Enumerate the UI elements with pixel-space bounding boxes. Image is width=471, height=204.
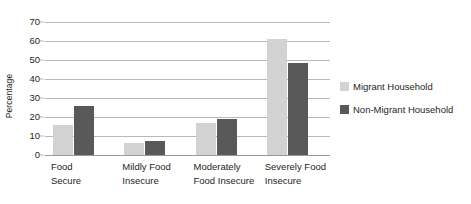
legend-item: Migrant Household bbox=[340, 82, 470, 92]
y-tick-mark bbox=[40, 98, 44, 99]
bar bbox=[196, 123, 216, 155]
y-tick-mark bbox=[40, 41, 44, 42]
x-axis-category-label: Moderately Food Insecure bbox=[194, 160, 265, 187]
bar bbox=[288, 63, 308, 155]
bar-group bbox=[259, 22, 330, 155]
x-axis-category-labels: Food SecureMildly Food InsecureModeratel… bbox=[45, 160, 330, 202]
y-tick-label: 0 bbox=[35, 150, 40, 160]
y-tick-mark bbox=[40, 22, 44, 23]
bar bbox=[145, 141, 165, 155]
y-tick-mark bbox=[40, 136, 44, 137]
x-axis-category-label: Severely Food Insecure bbox=[265, 160, 336, 187]
x-axis-category-label: Mildly Food Insecure bbox=[122, 160, 193, 187]
bar-group bbox=[116, 22, 187, 155]
bar-group bbox=[45, 22, 116, 155]
bar bbox=[74, 106, 94, 155]
y-tick-mark bbox=[40, 117, 44, 118]
bar bbox=[124, 143, 144, 155]
y-tick-label: 40 bbox=[29, 74, 40, 84]
bar bbox=[53, 125, 73, 155]
bar bbox=[267, 39, 287, 155]
y-tick-mark bbox=[40, 155, 44, 156]
legend-swatch-icon bbox=[340, 82, 349, 91]
legend-label: Migrant Household bbox=[353, 82, 433, 92]
bar-group bbox=[188, 22, 259, 155]
y-tick-label: 70 bbox=[29, 17, 40, 27]
y-tick-label: 50 bbox=[29, 55, 40, 65]
y-tick-label: 10 bbox=[29, 131, 40, 141]
y-axis-title-label: Percentage bbox=[4, 74, 14, 118]
y-tick-mark bbox=[40, 60, 44, 61]
y-tick-mark bbox=[40, 79, 44, 80]
legend: Migrant HouseholdNon-Migrant Household bbox=[340, 82, 470, 127]
legend-swatch-icon bbox=[340, 105, 349, 114]
bar bbox=[217, 119, 237, 155]
plot-area: 706050403020100 bbox=[45, 22, 330, 155]
legend-label: Non-Migrant Household bbox=[353, 105, 453, 115]
y-tick-label: 20 bbox=[29, 112, 40, 122]
y-tick-label: 60 bbox=[29, 36, 40, 46]
x-axis-category-label: Food Secure bbox=[51, 160, 122, 187]
y-axis-title: Percentage bbox=[2, 56, 16, 136]
y-tick-label: 30 bbox=[29, 93, 40, 103]
bar-series-container bbox=[45, 22, 330, 155]
bar-chart: Percentage 706050403020100 Food SecureMi… bbox=[0, 0, 471, 204]
gridline bbox=[45, 155, 330, 156]
legend-item: Non-Migrant Household bbox=[340, 105, 470, 115]
